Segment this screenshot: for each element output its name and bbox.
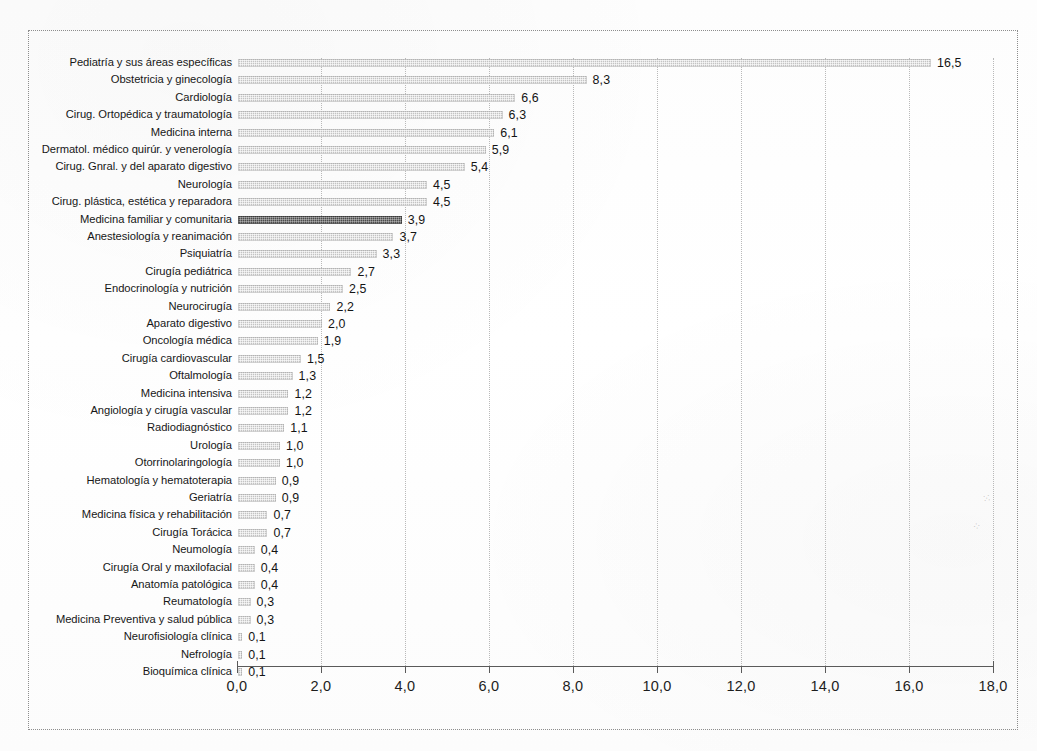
x-tick-label: 16,0 [879, 678, 939, 694]
bar [238, 250, 377, 258]
bar-value-label: 1,5 [307, 353, 325, 365]
x-tick-label: 18,0 [963, 678, 1023, 694]
bar [238, 651, 242, 659]
x-tick [489, 666, 490, 673]
bar [238, 581, 255, 589]
x-tick-label: 8,0 [543, 678, 603, 694]
category-label: Nefrología [30, 649, 232, 661]
bar [238, 459, 280, 467]
grid-line [993, 58, 994, 666]
bar-value-label: 0,4 [261, 579, 279, 591]
bar [238, 564, 255, 572]
bar [238, 198, 427, 206]
bar-value-label: 1,3 [299, 370, 317, 382]
bar-value-label: 5,9 [492, 144, 510, 156]
category-label: Anatomía patológica [30, 579, 232, 591]
category-label: Cardiología [30, 92, 232, 104]
bar [238, 529, 267, 537]
grid-line [741, 58, 742, 666]
x-tick-label: 14,0 [795, 678, 855, 694]
horizontal-bar-chart: Pediatría y sus áreas específicas16,5Obs… [0, 0, 1037, 751]
grid-line [489, 58, 490, 666]
bar-value-label: 0,3 [257, 596, 275, 608]
bar [238, 407, 288, 415]
category-label: Neurocirugía [30, 301, 232, 313]
bar-value-label: 3,3 [383, 248, 401, 260]
bar-value-label: 0,3 [257, 614, 275, 626]
bar [238, 163, 465, 171]
bar [238, 111, 503, 119]
bar [238, 146, 486, 154]
bar-value-label: 4,5 [433, 196, 451, 208]
x-tick [405, 666, 406, 673]
bar-value-label: 1,2 [294, 388, 312, 400]
bar [238, 337, 318, 345]
category-label: Cirugía Torácica [30, 527, 232, 539]
bar [238, 633, 242, 641]
category-label: Cirug. plástica, estética y reparadora [30, 196, 232, 208]
category-label: Medicina intensiva [30, 388, 232, 400]
bar-value-label: 8,3 [593, 74, 611, 86]
category-label: Dermatol. médico quirúr. y venerología [30, 144, 232, 156]
bar [238, 268, 351, 276]
bar-value-label: 2,5 [349, 283, 367, 295]
bar-value-label: 16,5 [937, 57, 962, 69]
bar-value-label: 4,5 [433, 179, 451, 191]
category-label: Cirug. Ortopédica y traumatología [30, 109, 232, 121]
bar [238, 494, 276, 502]
category-label: Angiología y cirugía vascular [30, 405, 232, 417]
category-label: Endocrinología y nutrición [30, 283, 232, 295]
x-tick-label: 12,0 [711, 678, 771, 694]
bar [238, 616, 251, 624]
bar [238, 94, 515, 102]
bar [238, 76, 587, 84]
bar [238, 320, 322, 328]
bar [238, 598, 251, 606]
bar-value-label: 0,1 [248, 666, 266, 678]
x-tick-label: 6,0 [459, 678, 519, 694]
category-label: Obstetricia y ginecología [30, 74, 232, 86]
category-label: Oftalmología [30, 370, 232, 382]
bar [238, 511, 267, 519]
bar-value-label: 1,0 [286, 457, 304, 469]
x-tick [573, 666, 574, 673]
bar-highlighted [238, 216, 402, 224]
bar-value-label: 1,9 [324, 335, 342, 347]
x-tick [909, 666, 910, 673]
category-label: Neumología [30, 544, 232, 556]
grid-line [657, 58, 658, 666]
category-label: Anestesiología y reanimación [30, 231, 232, 243]
bar [238, 59, 931, 67]
bar-value-label: 1,1 [290, 422, 308, 434]
category-label: Cirugía cardiovascular [30, 353, 232, 365]
category-label: Pediatría y sus áreas específicas [30, 57, 232, 69]
category-label: Aparato digestivo [30, 318, 232, 330]
category-label: Neurofisiología clínica [30, 631, 232, 643]
bar [238, 181, 427, 189]
bar [238, 285, 343, 293]
bar-value-label: 0,1 [248, 631, 266, 643]
bar [238, 129, 494, 137]
grid-line [825, 58, 826, 666]
bar [238, 390, 288, 398]
category-label: Cirug. Gnral. y del aparato digestivo [30, 161, 232, 173]
bar-value-label: 0,1 [248, 649, 266, 661]
bar-value-label: 0,9 [282, 492, 300, 504]
bar-value-label: 1,0 [286, 440, 304, 452]
category-label: Otorrinolaringología [30, 457, 232, 469]
bar-value-label: 6,1 [500, 127, 518, 139]
bar [238, 303, 330, 311]
category-label: Medicina interna [30, 127, 232, 139]
bar-value-label: 2,7 [357, 266, 375, 278]
category-label: Cirugía pediátrica [30, 266, 232, 278]
bar-value-label: 2,0 [328, 318, 346, 330]
bar-value-label: 0,7 [273, 527, 291, 539]
category-label: Oncología médica [30, 335, 232, 347]
bar-value-label: 6,3 [509, 109, 527, 121]
grid-line [573, 58, 574, 666]
category-label: Psiquiatría [30, 248, 232, 260]
x-tick [825, 666, 826, 673]
x-tick [657, 666, 658, 673]
bar [238, 372, 293, 380]
bar [238, 424, 284, 432]
